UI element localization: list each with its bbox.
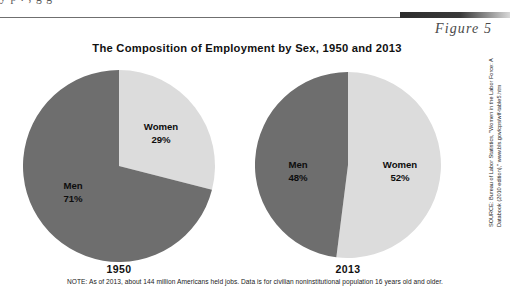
pie-2013-men-pct: 48% bbox=[288, 172, 307, 183]
header-accent-bar bbox=[400, 12, 510, 18]
pie-1950-men-pct: 71% bbox=[63, 193, 82, 204]
pie-chart-1950 bbox=[23, 70, 215, 262]
figure-note: NOTE: As of 2013, about 144 million Amer… bbox=[0, 278, 510, 285]
pie-2013-year-label: 2013 bbox=[308, 263, 388, 275]
pie-1950-women-pct: 29% bbox=[151, 134, 170, 145]
cut-off-text-above: y p . , g g bbox=[0, 0, 510, 7]
pie-1950-label-women: Women 29% bbox=[125, 121, 197, 146]
figure-title: The Composition of Employment by Sex, 19… bbox=[0, 42, 494, 54]
pie-2013-women-pct: 52% bbox=[390, 172, 409, 183]
pie-1950-women-name: Women bbox=[144, 121, 178, 132]
pie-2013-label-men: Men 48% bbox=[267, 159, 329, 184]
figure-source-line-1: SOURCE: Bureau of Labor Statistics, "Wom… bbox=[488, 62, 496, 227]
figure-label: Figure 5 bbox=[435, 21, 492, 37]
pie-2013-women-name: Women bbox=[383, 159, 417, 170]
pie-1950-men-name: Men bbox=[63, 180, 82, 191]
pie-1950-year-label: 1950 bbox=[79, 263, 159, 275]
figure-source: SOURCE: Bureau of Labor Statistics, "Wom… bbox=[488, 62, 503, 227]
pie-2013-men-name: Men bbox=[288, 159, 307, 170]
pie-1950-svg bbox=[23, 70, 215, 262]
pie-2013-label-women: Women 52% bbox=[364, 159, 436, 184]
pie-1950-label-men: Men 71% bbox=[42, 180, 104, 205]
figure-source-line-2: Databook (2010 edition)," www.bls.gov/cp… bbox=[496, 62, 504, 227]
figure-page: y p . , g g Figure 5 The Composition of … bbox=[0, 0, 510, 300]
